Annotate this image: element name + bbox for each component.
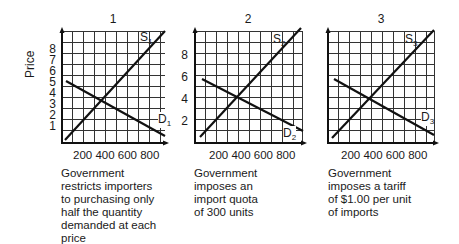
x-ticks-2: 200 400 600 800 xyxy=(209,149,295,161)
panel-2-title: 2 xyxy=(238,12,258,26)
panel-3-title: 3 xyxy=(371,12,391,26)
y-tick: 4 xyxy=(176,93,188,105)
caption-2: Government imposes an import quota of 30… xyxy=(194,167,258,219)
demand-label-3: D3 xyxy=(421,110,434,126)
chart-3-grid xyxy=(327,31,435,144)
supply-label-2: S2 xyxy=(273,32,285,48)
x-ticks-1: 200 400 600 800 xyxy=(73,149,159,161)
caption-3: Government imposes a tariff of $1.00 per… xyxy=(328,167,411,219)
y-axis-label: Price xyxy=(23,51,37,78)
supply-label-1: S1 xyxy=(140,30,152,46)
y-tick: 1 xyxy=(44,120,56,132)
chart-1-grid xyxy=(61,31,165,144)
x-ticks-3: 200 400 600 800 xyxy=(341,149,427,161)
panel-1-title: 1 xyxy=(103,12,123,26)
supply-curve-2 xyxy=(200,28,301,137)
y-tick: 8 xyxy=(176,49,188,61)
y-tick: 2 xyxy=(176,115,188,127)
demand-label-1: D1 xyxy=(158,112,171,128)
caption-1: Government restricts importers to purcha… xyxy=(61,167,156,244)
supply-label-3: S3 xyxy=(405,32,417,48)
demand-label-2: D2 xyxy=(283,126,296,142)
y-tick: 6 xyxy=(176,71,188,83)
